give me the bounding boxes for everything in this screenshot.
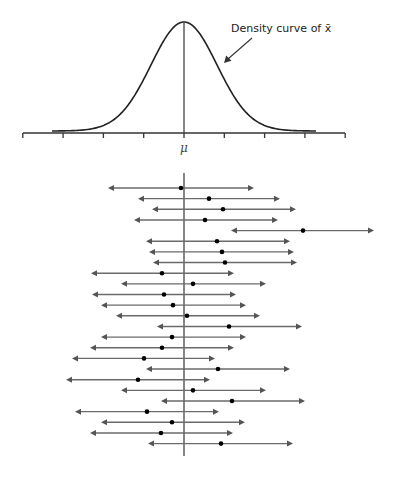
left-arrow-icon bbox=[116, 313, 122, 319]
left-arrow-icon bbox=[101, 302, 107, 308]
density-panel: μ Density curve of x̄ bbox=[23, 22, 345, 155]
left-arrow-icon bbox=[101, 419, 107, 425]
sample-mean-dot bbox=[179, 186, 184, 191]
left-arrow-icon bbox=[90, 430, 96, 436]
left-arrow-icon bbox=[108, 185, 114, 191]
sample-mean-dot bbox=[170, 420, 175, 425]
right-arrow-icon bbox=[290, 206, 296, 212]
left-arrow-icon bbox=[75, 409, 81, 415]
sample-mean-dot bbox=[301, 228, 306, 233]
sample-mean-dot bbox=[216, 367, 221, 372]
right-arrow-icon bbox=[284, 238, 290, 244]
right-arrow-icon bbox=[299, 398, 305, 404]
confidence-interval bbox=[161, 398, 305, 404]
left-arrow-icon bbox=[90, 345, 96, 351]
right-arrow-icon bbox=[240, 334, 246, 340]
sample-mean-dot bbox=[191, 282, 196, 287]
left-arrow-icon bbox=[231, 228, 237, 234]
sample-mean-dot bbox=[223, 260, 228, 265]
confidence-interval bbox=[121, 281, 266, 287]
left-arrow-icon bbox=[91, 270, 97, 276]
right-arrow-icon bbox=[368, 228, 374, 234]
confidence-interval bbox=[90, 430, 233, 436]
right-arrow-icon bbox=[213, 409, 219, 415]
right-arrow-icon bbox=[248, 185, 254, 191]
left-arrow-icon bbox=[146, 366, 152, 372]
sample-mean-dot bbox=[219, 441, 224, 446]
left-arrow-icon bbox=[72, 355, 78, 361]
right-arrow-icon bbox=[284, 366, 290, 372]
confidence-interval bbox=[90, 345, 234, 351]
sample-mean-dot bbox=[227, 324, 232, 329]
annotation-arrow-line bbox=[228, 38, 252, 59]
left-arrow-icon bbox=[148, 441, 154, 447]
confidence-interval bbox=[101, 302, 246, 308]
right-arrow-icon bbox=[228, 270, 234, 276]
right-arrow-icon bbox=[287, 441, 293, 447]
confidence-interval bbox=[146, 366, 290, 372]
sample-mean-dot bbox=[203, 218, 208, 223]
confidence-interval bbox=[149, 249, 294, 255]
right-arrow-icon bbox=[228, 345, 234, 351]
confidence-interval bbox=[231, 228, 374, 234]
confidence-interval bbox=[101, 419, 245, 425]
right-arrow-icon bbox=[260, 281, 266, 287]
right-arrow-icon bbox=[240, 302, 246, 308]
left-arrow-icon bbox=[101, 334, 107, 340]
left-arrow-icon bbox=[138, 196, 144, 202]
sample-mean-dot bbox=[207, 196, 212, 201]
sample-mean-dot bbox=[220, 250, 225, 255]
sample-mean-dot bbox=[142, 356, 147, 361]
confidence-interval bbox=[134, 217, 278, 223]
sample-mean-dot bbox=[136, 377, 141, 382]
sample-mean-dot bbox=[170, 335, 175, 340]
confidence-interval bbox=[146, 238, 290, 244]
right-arrow-icon bbox=[209, 355, 215, 361]
right-arrow-icon bbox=[274, 196, 280, 202]
left-arrow-icon bbox=[153, 260, 159, 266]
sample-mean-dot bbox=[191, 388, 196, 393]
confidence-intervals-panel bbox=[66, 173, 374, 456]
confidence-interval bbox=[138, 196, 280, 202]
right-arrow-icon bbox=[288, 249, 294, 255]
sample-mean-dot bbox=[160, 345, 165, 350]
left-arrow-icon bbox=[134, 217, 140, 223]
sample-mean-dot bbox=[215, 239, 220, 244]
confidence-interval bbox=[153, 260, 297, 266]
confidence-interval bbox=[75, 409, 219, 415]
right-arrow-icon bbox=[230, 292, 236, 298]
density-curve-label: Density curve of x̄ bbox=[231, 22, 332, 35]
confidence-interval bbox=[101, 334, 246, 340]
left-arrow-icon bbox=[146, 238, 152, 244]
right-arrow-icon bbox=[254, 313, 260, 319]
left-arrow-icon bbox=[121, 281, 127, 287]
sample-mean-dot bbox=[159, 431, 164, 436]
sample-mean-dot bbox=[160, 271, 165, 276]
right-arrow-icon bbox=[204, 377, 210, 383]
confidence-interval bbox=[116, 313, 260, 319]
right-arrow-icon bbox=[296, 323, 302, 329]
right-arrow-icon bbox=[239, 419, 245, 425]
right-arrow-icon bbox=[227, 430, 233, 436]
sample-mean-dot bbox=[230, 399, 235, 404]
confidence-interval bbox=[92, 292, 236, 298]
confidence-interval bbox=[121, 387, 266, 393]
mu-label: μ bbox=[180, 141, 188, 155]
right-arrow-icon bbox=[260, 387, 266, 393]
confidence-interval bbox=[152, 206, 296, 212]
annotation-arrow bbox=[224, 38, 252, 63]
right-arrow-icon bbox=[291, 260, 297, 266]
confidence-intervals bbox=[66, 185, 374, 447]
confidence-interval bbox=[91, 270, 234, 276]
left-arrow-icon bbox=[152, 206, 158, 212]
confidence-interval bbox=[108, 185, 254, 191]
sample-mean-dot bbox=[171, 303, 176, 308]
left-arrow-icon bbox=[161, 398, 167, 404]
left-arrow-icon bbox=[149, 249, 155, 255]
right-arrow-icon bbox=[272, 217, 278, 223]
sample-mean-dot bbox=[185, 314, 190, 319]
sample-mean-dot bbox=[162, 292, 167, 297]
left-arrow-icon bbox=[66, 377, 72, 383]
confidence-interval bbox=[148, 441, 293, 447]
confidence-interval bbox=[157, 323, 302, 329]
